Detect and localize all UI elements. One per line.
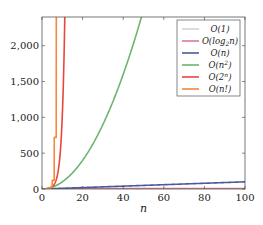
legend-label: O(n2) bbox=[209, 59, 232, 70]
legend-label: O(n) bbox=[210, 48, 229, 58]
x-tick-label: 80 bbox=[198, 192, 211, 203]
legend-label: O(n!) bbox=[209, 84, 232, 94]
y-tick-label: 0 bbox=[33, 184, 39, 195]
y-tick-label: 500 bbox=[20, 148, 39, 159]
x-tick-label: 0 bbox=[39, 192, 45, 203]
y-tick-label: 1,000 bbox=[10, 112, 39, 123]
legend-label: O(1) bbox=[210, 24, 229, 34]
x-axis-label: n bbox=[140, 202, 147, 215]
x-tick-label: 20 bbox=[76, 192, 89, 203]
x-tick-label: 100 bbox=[235, 192, 254, 203]
complexity-chart: 02040608010005001,0001,5002,000 n O(1)O(… bbox=[0, 0, 263, 225]
y-tick-label: 2,000 bbox=[10, 40, 39, 51]
y-tick-label: 1,500 bbox=[10, 76, 39, 87]
series-line-quadratic bbox=[42, 0, 151, 189]
x-tick-label: 60 bbox=[157, 192, 170, 203]
legend-label: O(log2n) bbox=[202, 36, 238, 47]
legend-label: O(2n) bbox=[209, 71, 232, 82]
series-line-factorial bbox=[42, 0, 56, 189]
x-tick-label: 40 bbox=[117, 192, 130, 203]
legend: O(1)O(log2n)O(n)O(n2)O(2n)O(n!) bbox=[177, 20, 240, 96]
